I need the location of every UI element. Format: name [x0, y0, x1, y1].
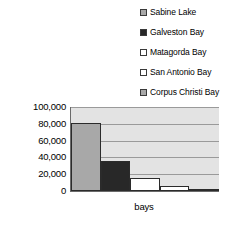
bar-chart: Sabine Lake Galveston Bay Matagorda Bay … — [0, 0, 245, 229]
y-tick-label: 40,000 — [14, 152, 66, 162]
legend-item-sabine-lake: Sabine Lake — [140, 2, 245, 22]
legend-swatch-icon — [140, 69, 147, 76]
legend-item-label: Sabine Lake — [150, 8, 196, 17]
bar-matagorda-bay — [130, 178, 160, 191]
bar-san-antonio-bay — [160, 186, 190, 191]
legend-item-label: San Antonio Bay — [150, 68, 211, 77]
plot-wrapper: acres 100,000 80,000 60,000 40,000 20,00… — [0, 103, 245, 229]
bar-slot — [160, 107, 190, 191]
bar-slot — [130, 107, 160, 191]
y-axis-title: acres — [19, 222, 26, 230]
y-tick-label: 100,000 — [14, 102, 66, 112]
y-tick-label: 0 — [14, 186, 66, 196]
legend-item-label: Corpus Christi Bay — [150, 88, 219, 97]
bar-galveston-bay — [101, 161, 131, 191]
y-tick-label: 60,000 — [14, 136, 66, 146]
plot-area — [70, 107, 219, 192]
y-tick-label: 80,000 — [14, 119, 66, 129]
legend-item-matagorda-bay: Matagorda Bay — [140, 42, 245, 62]
bar-slot — [71, 107, 101, 191]
legend-swatch-icon — [140, 89, 147, 96]
legend-swatch-icon — [140, 29, 147, 36]
x-axis-title: bays — [70, 201, 218, 212]
legend-item-label: Matagorda Bay — [150, 48, 206, 57]
legend-swatch-icon — [140, 9, 147, 16]
y-tick-label: 20,000 — [14, 169, 66, 179]
bars-container — [71, 107, 219, 191]
y-axis-ticks: 100,000 80,000 60,000 40,000 20,000 0 — [14, 103, 66, 193]
bar-slot — [101, 107, 131, 191]
legend-item-galveston-bay: Galveston Bay — [140, 22, 245, 42]
bar-sabine-lake — [71, 123, 101, 191]
bar-corpus-christi-bay — [189, 189, 219, 191]
bar-slot — [189, 107, 219, 191]
legend-item-label: Galveston Bay — [150, 28, 204, 37]
legend-swatch-icon — [140, 49, 147, 56]
legend-item-corpus-christi-bay: Corpus Christi Bay — [140, 82, 245, 102]
legend-item-san-antonio-bay: San Antonio Bay — [140, 62, 245, 82]
chart-legend: Sabine Lake Galveston Bay Matagorda Bay … — [140, 2, 245, 102]
